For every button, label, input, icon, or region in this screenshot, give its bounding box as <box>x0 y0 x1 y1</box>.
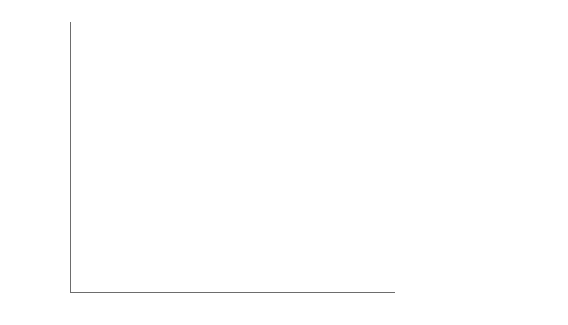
series-lines <box>70 22 395 293</box>
legend <box>406 14 568 319</box>
plot-area <box>70 22 395 292</box>
chart-area <box>0 0 400 325</box>
chart-figure <box>0 0 568 325</box>
